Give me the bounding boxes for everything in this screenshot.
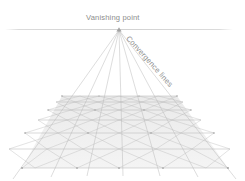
ground-plane [22, 96, 228, 168]
vanishing-point-label: Vanishing point [86, 13, 140, 22]
perspective-grid-figure: Vanishing point Convergence lines [0, 0, 245, 181]
perspective-diagram-canvas [0, 0, 245, 181]
